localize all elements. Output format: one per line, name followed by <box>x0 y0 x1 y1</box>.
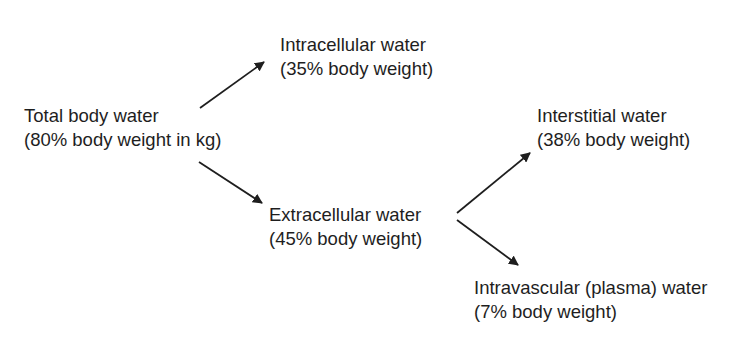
arrow-extracellular-to-interstitial <box>457 153 530 213</box>
node-title: Intracellular water <box>280 33 433 57</box>
arrow-total-to-intracellular <box>200 62 264 108</box>
node-detail: (80% body weight in kg) <box>24 128 221 152</box>
node-detail: (45% body weight) <box>269 227 422 251</box>
arrow-total-to-extracellular <box>199 162 262 203</box>
node-intravascular-water: Intravascular (plasma) water (7% body we… <box>474 276 707 324</box>
node-title: Intravascular (plasma) water <box>474 276 707 300</box>
node-title: Interstitial water <box>537 104 690 128</box>
arrow-extracellular-to-intravascular <box>457 220 518 265</box>
node-detail: (7% body weight) <box>474 300 707 324</box>
node-detail: (35% body weight) <box>280 57 433 81</box>
node-detail: (38% body weight) <box>537 128 690 152</box>
node-total-body-water: Total body water (80% body weight in kg) <box>24 104 221 152</box>
node-interstitial-water: Interstitial water (38% body weight) <box>537 104 690 152</box>
node-title: Total body water <box>24 104 221 128</box>
node-extracellular-water: Extracellular water (45% body weight) <box>269 203 422 251</box>
node-intracellular-water: Intracellular water (35% body weight) <box>280 33 433 81</box>
node-title: Extracellular water <box>269 203 422 227</box>
